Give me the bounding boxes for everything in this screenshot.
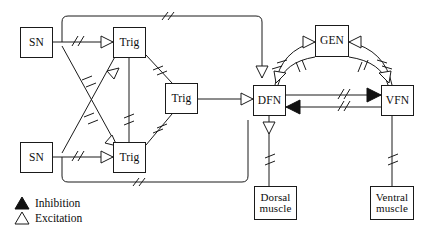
node-ventral-muscle[interactable]: Ventral muscle	[370, 186, 414, 220]
node-label: Trig	[114, 37, 145, 49]
node-gen[interactable]: GEN	[315, 25, 349, 57]
wire-vfn-to-ventral-muscle	[388, 116, 398, 186]
legend-item-excitation: Excitation	[14, 210, 154, 225]
outline-triangle-up-icon	[14, 211, 30, 225]
wire-trig-middle-to-dfn	[198, 93, 253, 105]
wire-gen-to-dfn	[274, 57, 315, 85]
node-vfn[interactable]: VFN	[381, 85, 414, 116]
node-trig-bottom[interactable]: Trig	[113, 142, 146, 173]
node-trig-top[interactable]: Trig	[113, 27, 146, 58]
wire-sn-top-to-trig-bottom	[62, 46, 117, 146]
node-sn-top[interactable]: SN	[20, 27, 53, 58]
wire-trig-top-to-trig-bottom	[124, 58, 134, 142]
node-trig-middle[interactable]: Trig	[165, 83, 198, 114]
wire-gen-to-vfn	[349, 57, 391, 85]
filled-triangle-up-icon	[14, 196, 30, 210]
wire-trig-bottom-to-trig-middle	[146, 114, 172, 145]
node-label: Ventral muscle	[371, 192, 413, 214]
node-dorsal-muscle[interactable]: Dorsal muscle	[254, 186, 297, 220]
node-sn-bottom[interactable]: SN	[20, 142, 53, 173]
node-dfn[interactable]: DFN	[253, 85, 286, 116]
node-label: VFN	[382, 95, 413, 107]
wire-sn-bottom-loop-to-dfn	[62, 120, 248, 186]
node-label: GEN	[316, 35, 348, 47]
node-label: Trig	[166, 93, 197, 105]
wire-dfn-to-dorsal-muscle	[263, 116, 275, 186]
node-label: SN	[21, 152, 52, 164]
node-label: Dorsal muscle	[255, 192, 296, 214]
legend-item-inhibition: Inhibition	[14, 195, 154, 210]
circuit-diagram: .wire { stroke: #1a1a1a; stroke-width: 1…	[0, 0, 430, 237]
wire-trig-top-to-trig-middle	[146, 55, 172, 83]
node-label: Trig	[114, 152, 145, 164]
legend-label: Excitation	[35, 212, 82, 224]
node-label: SN	[21, 37, 52, 49]
wire-sn-top-loop-to-dfn	[62, 12, 268, 78]
node-label: DFN	[254, 95, 285, 107]
legend: Inhibition Excitation	[14, 195, 154, 225]
legend-label: Inhibition	[35, 197, 80, 209]
